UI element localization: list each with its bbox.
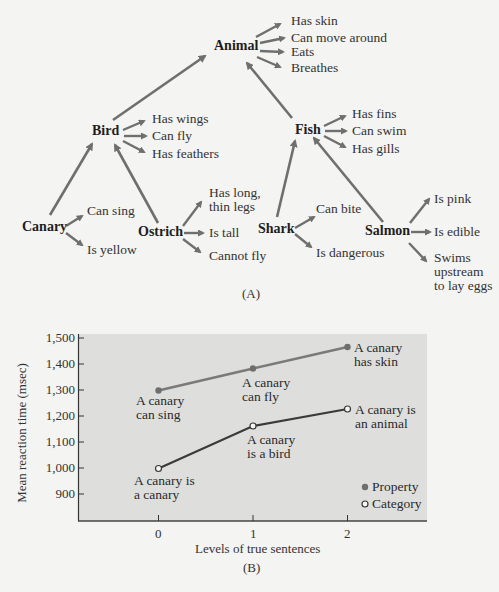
prop-is-dangerous: Is dangerous <box>316 246 385 260</box>
xtick-0: 0 <box>155 526 162 542</box>
prop-has-long: Has long, <box>209 186 261 200</box>
prop-upstream: upstream <box>434 265 484 279</box>
prop-is-pink: Is pink <box>434 192 471 206</box>
node-canary: Canary <box>22 219 67 235</box>
xtick-1: 1 <box>250 526 257 542</box>
prop-breathes: Breathes <box>291 61 338 75</box>
node-ostrich: Ostrich <box>138 224 183 240</box>
ytick-1100: 1,100 <box>46 434 75 450</box>
ytick-1400: 1,400 <box>46 356 75 372</box>
prop-eats: Eats <box>291 45 314 59</box>
prop-has-gills: Has gills <box>352 142 400 156</box>
prop-thin-legs: thin legs <box>209 200 255 214</box>
legend-category: Category <box>372 497 422 511</box>
prop-is-tall: Is tall <box>209 226 239 240</box>
annotation-p0: A canary can sing <box>136 394 184 422</box>
y-axis-title: Mean reaction time (msec) <box>14 363 30 503</box>
ytick-1000: 1,000 <box>46 460 75 476</box>
node-fish: Fish <box>295 122 321 138</box>
annotation-p1: A canary can fly <box>242 376 290 404</box>
prop-can-move-around: Can move around <box>291 31 387 45</box>
prop-can-sing: Can sing <box>87 204 135 218</box>
prop-cannot-fly: Cannot fly <box>209 249 266 263</box>
node-animal: Animal <box>214 38 258 54</box>
xtick-2: 2 <box>344 526 351 542</box>
prop-has-skin: Has skin <box>291 14 338 28</box>
prop-has-fins: Has fins <box>352 107 397 121</box>
prop-to-lay-eggs: to lay eggs <box>434 279 493 293</box>
node-shark: Shark <box>258 221 295 237</box>
node-bird: Bird <box>92 123 119 139</box>
prop-is-yellow: Is yellow <box>87 243 137 257</box>
annotation-c2: A canary is an animal <box>355 403 416 431</box>
caption-b: (B) <box>243 560 260 576</box>
prop-has-wings: Has wings <box>152 112 209 126</box>
x-axis-title: Levels of true sentences <box>195 541 320 557</box>
prop-has-feathers: Has feathers <box>152 147 219 161</box>
caption-a: (A) <box>242 286 260 302</box>
ytick-900: 900 <box>56 486 76 502</box>
legend-property: Property <box>372 480 419 494</box>
annotation-c0: A canary is a canary <box>134 474 195 502</box>
node-salmon: Salmon <box>365 223 410 239</box>
ytick-1300: 1,300 <box>46 382 75 398</box>
prop-can-fly: Can fly <box>152 129 192 143</box>
annotation-p2: A canary has skin <box>354 341 402 369</box>
prop-can-bite: Can bite <box>316 202 361 216</box>
annotation-c1: A canary is a bird <box>247 433 295 461</box>
prop-is-edible: Is edible <box>434 225 480 239</box>
prop-can-swim: Can swim <box>352 124 406 138</box>
prop-swims: Swims <box>434 251 471 265</box>
ytick-1200: 1,200 <box>46 408 75 424</box>
ytick-1500: 1,500 <box>46 330 75 346</box>
